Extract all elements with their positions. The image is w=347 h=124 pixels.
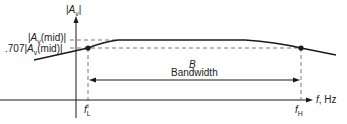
response-curve — [34, 40, 336, 60]
x-axis-arrow-icon — [306, 98, 313, 103]
x-axis-label: f, Hz — [316, 95, 337, 105]
fh-label: fH — [295, 105, 303, 117]
y-axis-label: |Av| — [66, 5, 81, 17]
fh-point — [298, 45, 303, 50]
fl-point — [85, 45, 90, 50]
bandwidth-label: Bandwidth — [171, 68, 218, 78]
707-level-label: .707|Av(mid)| — [5, 44, 63, 56]
fl-label: fL — [84, 105, 91, 117]
bandwidth-arrow-left-icon — [89, 78, 96, 83]
bandwidth-arrow-right-icon — [293, 78, 300, 83]
y-axis-arrow-icon — [74, 16, 79, 23]
